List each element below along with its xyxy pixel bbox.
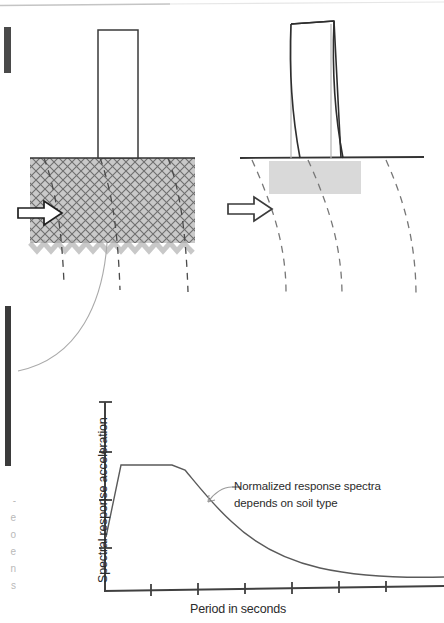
margin-text-fragment: - bbox=[2, 492, 16, 509]
margin-text-fragment: o bbox=[2, 526, 16, 543]
soil-bottom-ragged-edge bbox=[30, 243, 193, 251]
building-deformed-left-edge bbox=[290, 24, 300, 158]
building-undeformed bbox=[98, 30, 138, 158]
margin-text-fragment: n bbox=[2, 560, 16, 577]
margin-text-fragment: e bbox=[2, 509, 16, 526]
page-top-rule-right bbox=[170, 2, 444, 4]
soft-soil-diagram bbox=[18, 30, 195, 371]
chart-annotation: Normalized response spectra depends on s… bbox=[234, 478, 381, 511]
figure-page: Normalized response spectra depends on s… bbox=[0, 0, 444, 623]
rock-site-diagram bbox=[228, 21, 424, 296]
margin-text-fragment: e bbox=[2, 543, 16, 560]
chart-x-axis bbox=[104, 586, 444, 591]
margin-text-fragment: s bbox=[2, 577, 16, 594]
ground-surface-line bbox=[240, 157, 424, 158]
chart-annotation-line2: depends on soil type bbox=[234, 495, 381, 512]
building-deformed-top bbox=[291, 21, 334, 24]
chart-y-axis-label: Spectral response acceleration bbox=[96, 417, 110, 583]
annotation-leader-line bbox=[208, 487, 232, 502]
chart-x-axis-label: Period in seconds bbox=[190, 602, 286, 616]
seismic-soil-response-figure bbox=[0, 0, 444, 623]
soil-block-hatched bbox=[30, 158, 195, 243]
page-edge-mark-lower bbox=[5, 306, 11, 466]
margin-text-fragments: -eoens bbox=[2, 492, 16, 594]
ground-motion-arrow-right bbox=[228, 197, 272, 221]
chart-annotation-line1: Normalized response spectra bbox=[234, 478, 381, 495]
page-top-rule bbox=[0, 4, 170, 6]
page-edge-mark-upper bbox=[4, 27, 11, 73]
